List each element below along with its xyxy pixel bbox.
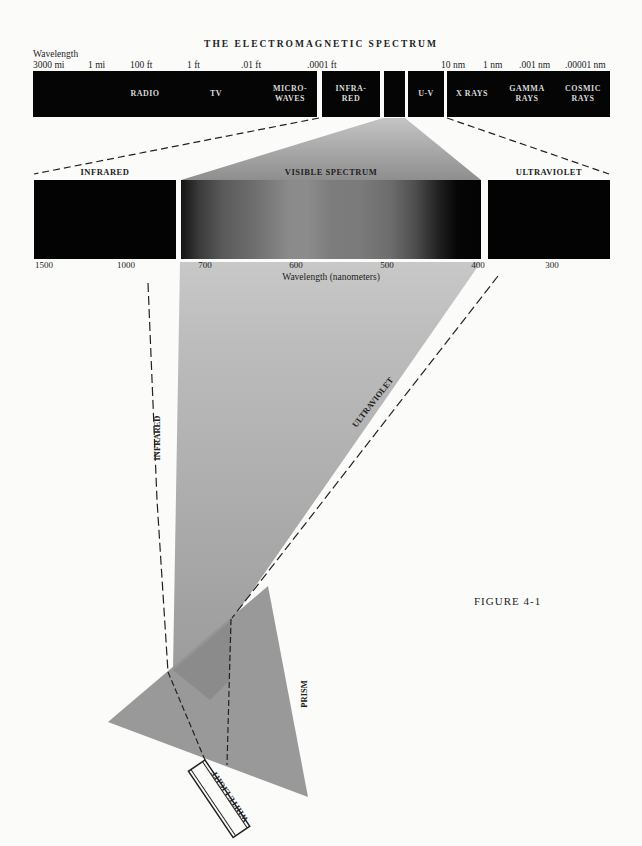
dispersed-light-beam bbox=[173, 262, 481, 670]
infrared-ray bbox=[148, 283, 168, 672]
detail-tick: 400 bbox=[471, 260, 485, 270]
band-label-xrays: X RAYS bbox=[456, 89, 488, 99]
detail-tick: 1000 bbox=[117, 260, 135, 270]
ultraviolet-panel bbox=[488, 180, 610, 259]
ultraviolet-projection-line bbox=[447, 118, 609, 174]
band-label-gamma: GAMMARAYS bbox=[509, 84, 544, 104]
band-label-infrared: INFRA-RED bbox=[336, 84, 367, 104]
detail-axis-label: Wavelength (nanometers) bbox=[181, 272, 481, 282]
band-ultraviolet: U-V bbox=[408, 71, 444, 117]
prism-label: PRISM bbox=[299, 680, 309, 707]
band-label-uv: U-V bbox=[418, 89, 434, 99]
band-xray-gamma-cosmic: X RAYS GAMMARAYS COSMICRAYS bbox=[447, 71, 610, 117]
diagram-graphics: INFRARED ULTRAVIOLET PRISM WHITE LIGHT bbox=[0, 0, 642, 846]
detail-tick: 300 bbox=[545, 260, 559, 270]
infrared-panel bbox=[34, 180, 176, 259]
band-label-cosmic: COSMICRAYS bbox=[565, 84, 601, 104]
band-radio-tv-microwaves: RADIO TV MICRO-WAVES bbox=[33, 71, 317, 117]
visible-section-title: VISIBLE SPECTRUM bbox=[181, 167, 481, 177]
infrared-ray-label: INFRARED bbox=[152, 416, 162, 461]
detail-tick: 700 bbox=[198, 260, 212, 270]
visible-spectrum-panel bbox=[181, 180, 481, 259]
band-label-radio: RADIO bbox=[130, 89, 159, 99]
band-visible bbox=[384, 71, 405, 117]
ultraviolet-section-title: ULTRAVIOLET bbox=[488, 167, 610, 177]
infrared-section-title: INFRARED bbox=[34, 167, 176, 177]
band-infrared: INFRA-RED bbox=[322, 71, 380, 117]
detail-tick: 1500 bbox=[35, 260, 53, 270]
detail-tick: 500 bbox=[380, 260, 394, 270]
band-label-microwaves: MICRO-WAVES bbox=[273, 84, 307, 104]
detail-tick: 600 bbox=[289, 260, 303, 270]
band-label-tv: TV bbox=[210, 89, 222, 99]
figure-caption: FIGURE 4-1 bbox=[474, 595, 541, 607]
